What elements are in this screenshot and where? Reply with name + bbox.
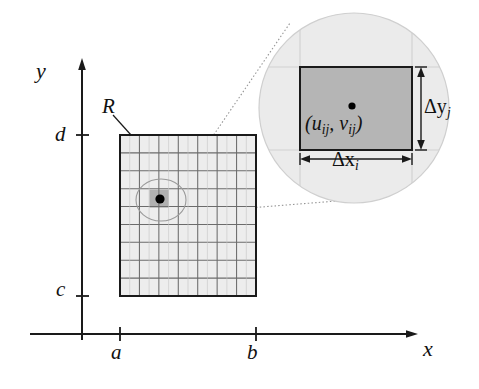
- x-axis-label: x: [423, 336, 433, 362]
- x-tick-label-a: a: [111, 340, 122, 365]
- delta-x-symbol: Δx: [332, 148, 355, 170]
- sample-point-label-sub-v: ij: [348, 122, 356, 137]
- delta-y-subscript: j: [447, 105, 451, 120]
- x-tick-label-b: b: [247, 340, 258, 365]
- sample-point-label-open: (u: [305, 112, 322, 134]
- sample-point-dot-magnified: [348, 102, 355, 109]
- sample-point-label: (uij, vij): [305, 112, 362, 138]
- region-R: [120, 135, 256, 296]
- y-tick-label-c: c: [56, 277, 65, 302]
- sample-point-dot-small: [155, 194, 164, 203]
- magnifier-inset: [259, 13, 449, 203]
- sample-point-label-separator: , v: [329, 112, 348, 134]
- x-axis-arrowhead: [406, 330, 418, 338]
- region-label-leader-line: [113, 115, 131, 135]
- delta-x-label: Δxi: [332, 148, 359, 174]
- figure-canvas: [0, 0, 479, 389]
- region-label-R: R: [102, 94, 115, 119]
- y-axis-label: y: [36, 58, 46, 84]
- riemann-partition-figure: y x d c a b R (uij, vij) Δyj Δxi: [0, 0, 479, 389]
- y-tick-label-d: d: [55, 122, 66, 147]
- delta-y-label: Δyj: [424, 95, 451, 121]
- delta-x-subscript: i: [355, 158, 359, 173]
- delta-y-symbol: Δy: [424, 95, 447, 117]
- sample-point-label-close: ): [356, 112, 363, 134]
- y-axis-arrowhead: [78, 58, 86, 70]
